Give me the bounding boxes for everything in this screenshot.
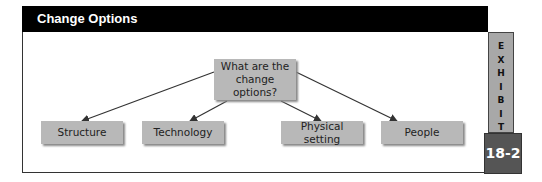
- exhibit-number: 18-2: [484, 133, 522, 174]
- exhibit-label-column: E X H I B I T: [488, 32, 514, 133]
- node-physical-setting: Physical setting: [281, 121, 363, 144]
- root-node-line2: change options?: [214, 73, 296, 99]
- root-node: What are the change options?: [214, 59, 296, 100]
- arrow-to-people: [296, 72, 397, 121]
- node-structure: Structure: [41, 121, 123, 144]
- arrow-to-technology: [190, 101, 227, 121]
- root-node-line1: What are the: [214, 60, 296, 73]
- arrow-to-physical-setting: [281, 101, 321, 121]
- node-people-label: People: [405, 126, 440, 139]
- exhibit-letter: H: [489, 67, 513, 81]
- node-people: People: [381, 121, 463, 144]
- exhibit-letter: X: [489, 54, 513, 68]
- arrow-to-structure: [82, 72, 214, 121]
- node-technology-label: Technology: [154, 126, 213, 139]
- exhibit-letter: E: [489, 40, 513, 54]
- exhibit-letter: I: [489, 81, 513, 95]
- exhibit-letter: B: [489, 94, 513, 108]
- node-structure-label: Structure: [58, 126, 107, 139]
- node-physical-setting-label: Physical setting: [281, 120, 363, 146]
- node-technology: Technology: [142, 121, 224, 144]
- exhibit-letter: I: [489, 108, 513, 122]
